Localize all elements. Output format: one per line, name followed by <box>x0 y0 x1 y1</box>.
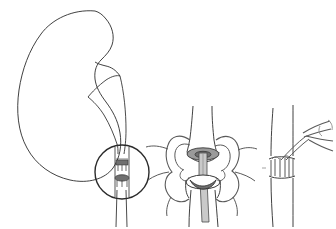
surgical-illustration-figure: Ureteroureterostomy: kidney with uretera… <box>0 0 336 229</box>
illustration-canvas <box>0 0 336 229</box>
suture-row-upper <box>116 159 128 171</box>
suture-row-lower <box>115 175 129 187</box>
